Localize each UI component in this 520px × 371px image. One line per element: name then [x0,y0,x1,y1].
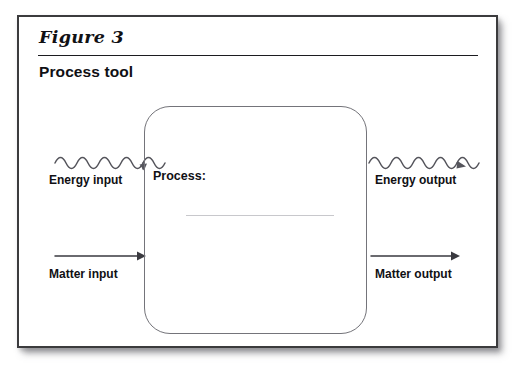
matter-output-arrow-icon [371,252,460,261]
process-box-label: Process: [153,169,206,183]
figure-card: Figure 3 Process tool [17,15,498,348]
process-box [144,106,367,334]
matter-input-label: Matter input [49,267,118,281]
screenshot-root: Figure 3 Process tool [0,0,520,371]
matter-output-label: Matter output [375,267,452,281]
energy-output-label: Energy output [375,173,456,187]
matter-input-arrow-icon [55,252,146,261]
process-fill-in-line[interactable] [186,215,334,216]
energy-output-wavy-arrow-icon [369,158,479,169]
energy-input-label: Energy input [49,173,122,187]
